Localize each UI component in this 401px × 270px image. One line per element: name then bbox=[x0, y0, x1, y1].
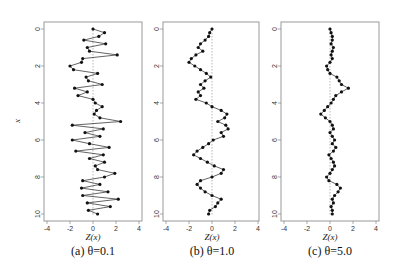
data-point bbox=[202, 87, 205, 90]
data-point bbox=[331, 135, 334, 138]
x-tick-label: 0 bbox=[91, 225, 95, 232]
x-tick-label: -4 bbox=[281, 225, 287, 232]
data-point bbox=[210, 194, 213, 197]
data-point bbox=[223, 116, 226, 119]
data-point bbox=[210, 175, 213, 178]
data-point bbox=[326, 105, 329, 108]
data-point bbox=[96, 168, 99, 171]
data-point bbox=[73, 87, 76, 90]
figure: -4-20240246810Z(x)(a) θ=0.1-4-2024024681… bbox=[0, 0, 401, 270]
data-point bbox=[208, 31, 211, 34]
data-point bbox=[113, 172, 116, 175]
data-point bbox=[197, 46, 200, 49]
x-tick-label: 4 bbox=[137, 225, 141, 232]
data-point bbox=[325, 64, 328, 67]
data-point bbox=[193, 64, 196, 67]
data-point bbox=[71, 124, 74, 127]
data-point bbox=[209, 76, 212, 79]
data-point bbox=[194, 98, 197, 101]
data-point bbox=[213, 164, 216, 167]
data-point bbox=[199, 83, 202, 86]
data-point bbox=[332, 150, 335, 153]
data-point bbox=[103, 161, 106, 164]
data-point bbox=[199, 94, 202, 97]
data-point bbox=[330, 31, 333, 34]
data-point bbox=[220, 172, 223, 175]
data-point bbox=[204, 79, 207, 82]
data-point bbox=[205, 101, 208, 104]
data-point bbox=[208, 209, 211, 212]
data-point bbox=[327, 153, 330, 156]
data-point bbox=[347, 87, 350, 90]
data-point bbox=[98, 183, 101, 186]
data-point bbox=[225, 113, 228, 116]
data-point bbox=[86, 46, 89, 49]
data-point bbox=[331, 39, 334, 42]
data-point bbox=[324, 116, 327, 119]
data-point bbox=[328, 72, 331, 75]
data-point bbox=[337, 190, 340, 193]
data-point bbox=[76, 94, 79, 97]
data-point bbox=[103, 175, 106, 178]
data-point bbox=[194, 53, 197, 56]
data-point bbox=[331, 168, 334, 171]
data-point bbox=[101, 83, 104, 86]
y-tick-label: 2 bbox=[271, 64, 278, 68]
data-point bbox=[74, 150, 77, 153]
data-point bbox=[205, 72, 208, 75]
data-point bbox=[86, 201, 89, 204]
data-point bbox=[187, 61, 190, 64]
data-point bbox=[330, 101, 333, 104]
data-point bbox=[109, 205, 112, 208]
data-point bbox=[117, 198, 120, 201]
y-tick-label: 2 bbox=[34, 64, 41, 68]
panel-caption: (b) θ=1.0 bbox=[190, 244, 235, 258]
x-tick-label: -2 bbox=[67, 225, 73, 232]
x-tick-label: 4 bbox=[256, 225, 260, 232]
data-point bbox=[197, 90, 200, 93]
x-axis-label: Z(x) bbox=[323, 232, 338, 242]
data-point bbox=[330, 53, 333, 56]
data-point bbox=[331, 142, 334, 145]
data-point bbox=[319, 113, 322, 116]
data-point bbox=[335, 183, 338, 186]
data-point bbox=[192, 153, 195, 156]
data-point bbox=[330, 157, 333, 160]
data-point bbox=[204, 39, 207, 42]
data-point bbox=[334, 146, 337, 149]
data-point bbox=[227, 127, 230, 130]
data-point bbox=[94, 101, 97, 104]
data-point bbox=[332, 127, 335, 130]
data-point bbox=[338, 79, 341, 82]
data-point bbox=[87, 209, 90, 212]
data-point bbox=[196, 183, 199, 186]
data-point bbox=[222, 135, 225, 138]
data-point bbox=[81, 179, 84, 182]
data-point bbox=[331, 209, 334, 212]
data-point bbox=[331, 124, 334, 127]
data-point bbox=[331, 57, 334, 60]
data-point bbox=[328, 61, 331, 64]
y-tick-label: 6 bbox=[34, 138, 41, 142]
data-point bbox=[332, 46, 335, 49]
data-point bbox=[68, 64, 71, 67]
data-point bbox=[96, 212, 99, 215]
data-point bbox=[328, 172, 331, 175]
y-tick-label: 0 bbox=[34, 27, 41, 31]
data-point bbox=[330, 205, 333, 208]
data-point bbox=[102, 127, 105, 130]
x-tick-label: -4 bbox=[163, 225, 169, 232]
data-point bbox=[103, 31, 106, 34]
data-point bbox=[220, 109, 223, 112]
data-point bbox=[201, 146, 204, 149]
series-line bbox=[321, 29, 349, 214]
data-point bbox=[91, 98, 94, 101]
y-tick-label: 2 bbox=[153, 64, 160, 68]
data-point bbox=[328, 27, 331, 30]
x-tick-label: 2 bbox=[233, 225, 237, 232]
data-point bbox=[82, 39, 85, 42]
y-tick-label: 10 bbox=[153, 210, 160, 218]
x-tick-label: 2 bbox=[114, 225, 118, 232]
data-point bbox=[332, 161, 335, 164]
data-point bbox=[102, 153, 105, 156]
